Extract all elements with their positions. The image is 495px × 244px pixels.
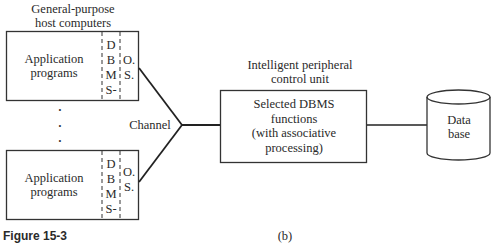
- db-label-line1: Data: [428, 113, 490, 127]
- app-programs-label-top: Application programs: [8, 52, 100, 80]
- os-column-top: O. S.: [120, 53, 138, 83]
- dbms-letter: B: [102, 172, 120, 187]
- dbms-letter: B: [102, 53, 120, 68]
- dbms-letter: S-: [102, 202, 120, 217]
- ellipsis-dot: •: [55, 120, 65, 134]
- db-label-line2: base: [428, 127, 490, 141]
- host-computers-label: General-purpose host computers: [18, 2, 128, 30]
- os-letter: S.: [120, 180, 138, 195]
- control-unit-label: Intelligent peripheral control unit: [240, 58, 360, 86]
- app-label-line2: programs: [8, 185, 100, 199]
- control-unit-functions: Selected DBMS functions (with associativ…: [221, 97, 367, 155]
- dbms-letter: M: [102, 187, 120, 202]
- dbms-letter: S-: [102, 83, 120, 98]
- dbms-column-bottom: D B M S-: [102, 157, 120, 217]
- os-column-bottom: O. S.: [120, 165, 138, 195]
- os-letter: O.: [120, 53, 138, 68]
- cu-label-line2: control unit: [240, 72, 360, 86]
- app-label-line1: Application: [8, 171, 100, 185]
- cu-box-line: (with associative: [221, 126, 367, 141]
- dbms-letter: D: [102, 157, 120, 172]
- channel-line-bottom: [139, 125, 182, 182]
- os-letter: S.: [120, 68, 138, 83]
- cu-label-line1: Intelligent peripheral: [240, 58, 360, 72]
- os-letter: O.: [120, 165, 138, 180]
- ellipsis-dot: •: [55, 135, 65, 149]
- figure-caption: Figure 15-3: [3, 229, 67, 243]
- host-label-line2: host computers: [18, 16, 128, 30]
- app-programs-label-bottom: Application programs: [8, 171, 100, 199]
- app-label-line1: Application: [8, 52, 100, 66]
- ellipsis-dot: •: [55, 104, 65, 118]
- subfigure-label: (b): [270, 229, 300, 243]
- cu-box-line: processing): [221, 141, 367, 156]
- dbms-letter: M: [102, 68, 120, 83]
- channel-label: Channel: [122, 118, 178, 132]
- database-label: Data base: [428, 113, 490, 141]
- host-label-line1: General-purpose: [18, 2, 128, 16]
- channel-line-top: [139, 68, 182, 125]
- cu-box-line: functions: [221, 112, 367, 127]
- dbms-letter: D: [102, 38, 120, 53]
- app-label-line2: programs: [8, 66, 100, 80]
- cu-box-line: Selected DBMS: [221, 97, 367, 112]
- dbms-column-top: D B M S-: [102, 38, 120, 98]
